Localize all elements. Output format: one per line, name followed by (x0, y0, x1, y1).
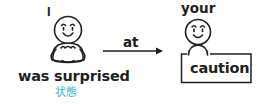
object-label: caution (190, 61, 250, 76)
grammar-annotation: 状態 (55, 87, 77, 98)
subject-label: I (47, 5, 51, 18)
diagram-canvas: I was surprised 状態 at your caution (0, 0, 265, 104)
subject-figure-icon (51, 17, 85, 63)
possessive-label: your (181, 2, 215, 16)
preposition-label: at (123, 36, 139, 50)
verb-phrase-label: was surprised (18, 69, 130, 84)
object-figure-icon (186, 20, 211, 56)
diagram-graphics (0, 0, 265, 104)
